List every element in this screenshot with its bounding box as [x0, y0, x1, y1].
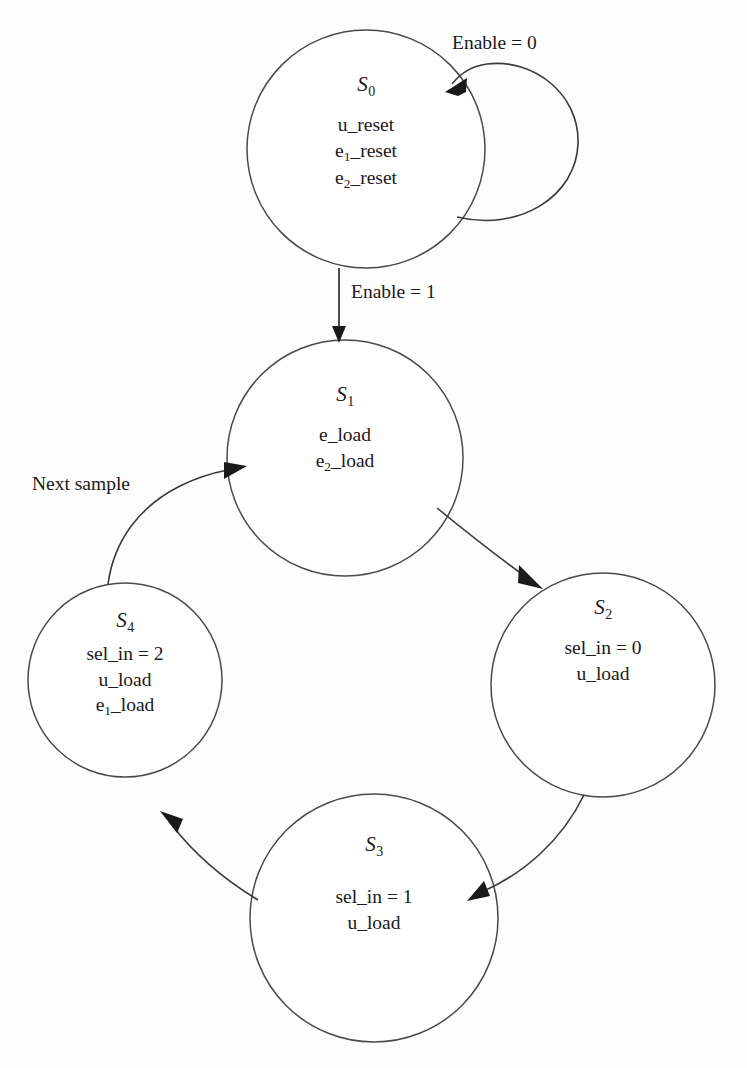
- state-title-base-s2: S: [594, 595, 605, 619]
- state-action-line: e2_load: [316, 448, 375, 476]
- state-actions-s0: u_reset e1_reset e2_reset: [335, 112, 397, 193]
- state-title-sub-s0: 0: [368, 84, 375, 99]
- transition-s4-to-s1[interactable]: [108, 470, 228, 584]
- state-action-line: u_load: [86, 667, 163, 693]
- state-actions-s1: e_load e2_load: [316, 422, 375, 475]
- state-action-line: sel_in = 0: [564, 635, 641, 661]
- state-title-sub-s2: 2: [605, 607, 612, 622]
- state-action-line: e2_reset: [335, 165, 397, 193]
- state-title-s1: S1: [336, 382, 354, 409]
- state-label-block-s1: S1 e_load e2_load: [225, 382, 465, 475]
- state-title-sub-s4: 4: [127, 620, 134, 635]
- state-title-s0: S0: [357, 72, 375, 99]
- state-action-line: sel_in = 2: [86, 641, 163, 667]
- state-action-line: u_reset: [335, 112, 397, 138]
- state-action-line: e1_reset: [335, 138, 397, 166]
- arrowhead-s1-to-s2: [518, 565, 543, 589]
- state-label-block-s0: S0 u_reset e1_reset e2_reset: [246, 72, 486, 193]
- state-title-base-s1: S: [336, 382, 347, 406]
- state-title-sub-s1: 1: [347, 394, 354, 409]
- state-label-block-s2: S2 sel_in = 0 u_load: [493, 595, 713, 686]
- state-action-line: e_load: [316, 422, 375, 448]
- state-diagram-canvas: S0 u_reset e1_reset e2_reset S1 e_load e…: [0, 0, 747, 1068]
- state-action-line: u_load: [564, 661, 641, 687]
- state-title-s3: S3: [365, 832, 383, 859]
- state-title-base-s3: S: [365, 832, 376, 856]
- state-action-line: sel_in = 1: [335, 884, 412, 910]
- transition-s2-to-s3[interactable]: [486, 795, 584, 890]
- state-title-s2: S2: [594, 595, 612, 622]
- transition-s3-to-s4[interactable]: [172, 825, 258, 900]
- arrowhead-s3-to-s4: [160, 811, 183, 833]
- state-label-block-s4: S4 sel_in = 2 u_load e1_load: [25, 608, 225, 720]
- transition-s1-to-s2[interactable]: [437, 508, 526, 577]
- state-title-base-s0: S: [357, 72, 368, 96]
- state-action-line: u_load: [335, 910, 412, 936]
- state-actions-s3: sel_in = 1 u_load: [335, 884, 412, 935]
- state-label-block-s3: S3 sel_in = 1 u_load: [264, 832, 484, 935]
- state-title-s4: S4: [116, 608, 134, 635]
- state-actions-s2: sel_in = 0 u_load: [564, 635, 641, 686]
- state-actions-s4: sel_in = 2 u_load e1_load: [86, 641, 163, 720]
- state-action-line: e1_load: [86, 692, 163, 720]
- state-title-base-s4: S: [116, 608, 127, 632]
- state-title-sub-s3: 3: [376, 844, 383, 859]
